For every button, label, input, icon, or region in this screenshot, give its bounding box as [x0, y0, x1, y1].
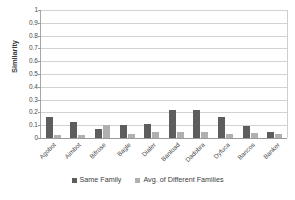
x-tick-cell: Bancos — [238, 139, 263, 171]
square-marker-dark — [72, 178, 77, 183]
x-tick-label: Aimbot — [63, 141, 82, 160]
bar-group — [115, 10, 140, 138]
legend-label: Avg. of Different Families — [143, 176, 223, 184]
bar-different-families — [251, 133, 258, 138]
y-tick-label: 0.5 — [20, 71, 38, 78]
bar-different-families — [275, 134, 282, 138]
x-tick-cell: Dyfuca — [214, 139, 239, 171]
bar-different-families — [128, 134, 135, 138]
y-tick-label: 0.2 — [20, 109, 38, 116]
y-tick-label: 1 — [20, 7, 38, 14]
x-tick-cell: Banker — [263, 139, 288, 171]
y-tick-label: 0.7 — [20, 45, 38, 52]
legend-label: Same Family — [80, 176, 122, 184]
bar-different-families — [54, 135, 61, 138]
x-tick-cell: Agobot — [40, 139, 65, 171]
bar-same-family — [46, 117, 53, 138]
bar-same-family — [243, 126, 250, 138]
x-tick-cell: Dadobra — [189, 139, 214, 171]
y-axis-title: Similarity — [10, 22, 19, 92]
bar-same-family — [120, 125, 127, 138]
x-tick-label: Banker — [261, 141, 280, 160]
bar-same-family — [70, 122, 77, 138]
y-tick-label: 0.1 — [20, 122, 38, 129]
bar-same-family — [218, 117, 225, 138]
plot-area — [40, 10, 288, 138]
legend-item[interactable]: Avg. of Different Families — [135, 176, 223, 184]
bar-same-family — [144, 124, 151, 138]
bars-layer — [41, 10, 287, 138]
bar-group — [90, 10, 115, 138]
x-tick-label: Bancos — [236, 141, 256, 161]
chart-legend: Same FamilyAvg. of Different Families — [0, 176, 295, 184]
x-tick-cell: Bifrose — [90, 139, 115, 171]
x-tick-label: Agobot — [38, 141, 57, 160]
legend-item[interactable]: Same Family — [72, 176, 122, 184]
bar-same-family — [193, 110, 200, 138]
y-tick-label: 0.6 — [20, 58, 38, 65]
x-tick-label: Bagle — [115, 141, 132, 158]
bar-group — [262, 10, 287, 138]
bar-group — [66, 10, 91, 138]
bar-group — [213, 10, 238, 138]
bar-different-families — [226, 134, 233, 138]
similarity-bar-chart: Similarity 10.90.80.70.60.50.40.30.20.10… — [0, 0, 295, 200]
bar-group — [139, 10, 164, 138]
x-tick-label: Bifrose — [88, 141, 107, 160]
y-axis-tick-labels: 10.90.80.70.60.50.40.30.20.10 — [20, 10, 38, 138]
y-tick-label: 0.8 — [20, 32, 38, 39]
square-marker-light — [135, 178, 140, 183]
bar-group — [164, 10, 189, 138]
x-tick-label: Banload — [160, 141, 182, 163]
bar-group — [41, 10, 66, 138]
bar-same-family — [169, 110, 176, 138]
bar-same-family — [267, 132, 274, 138]
x-tick-label: Dialer — [140, 141, 157, 158]
y-tick-label: 0.3 — [20, 96, 38, 103]
y-tick-label: 0 — [20, 135, 38, 142]
bar-different-families — [78, 135, 85, 138]
x-tick-cell: Bagle — [114, 139, 139, 171]
bar-different-families — [201, 132, 208, 138]
x-tick-label: Dyfuca — [212, 141, 231, 160]
y-tick-label: 0.4 — [20, 84, 38, 91]
bar-group — [238, 10, 263, 138]
x-tick-cell: Aimbot — [65, 139, 90, 171]
x-axis-category-labels: AgobotAimbotBifroseBagleDialerBanloadDad… — [40, 139, 288, 171]
bar-different-families — [177, 132, 184, 138]
y-tick-label: 0.9 — [20, 20, 38, 27]
bar-different-families — [152, 132, 159, 138]
bar-different-families — [103, 125, 110, 138]
bar-same-family — [95, 129, 102, 138]
bar-group — [189, 10, 214, 138]
